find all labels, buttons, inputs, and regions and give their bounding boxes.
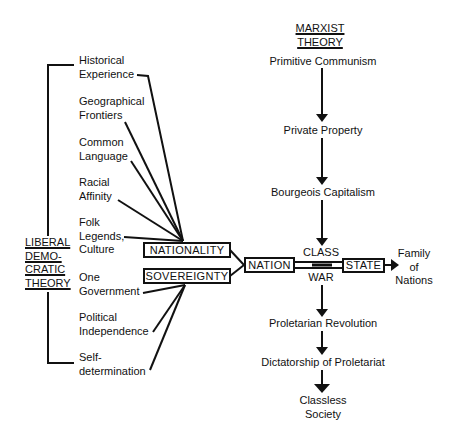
- line-government: [143, 285, 185, 293]
- factor-geographical-frontiers: GeographicalFrontiers: [79, 95, 144, 122]
- nationality-box: NATIONALITY: [143, 242, 231, 258]
- arrowhead-icon: [316, 309, 328, 317]
- war-label: WAR: [308, 271, 333, 285]
- factor-political-independence: PoliticalIndependence: [79, 311, 149, 338]
- sovereignty-box: SOVEREIGNTY: [143, 268, 231, 284]
- class-label: CLASS: [303, 246, 339, 260]
- factor-racial-affinity: RacialAffinity: [79, 176, 112, 203]
- stage-primitive-communism: Primitive Communism: [270, 55, 377, 69]
- arrowhead-icon: [316, 177, 328, 185]
- marxist-theory-title: MARXISTTHEORY: [296, 22, 345, 49]
- stage-dictatorship-of-proletariat: Dictatorship of Proletariat: [261, 356, 385, 370]
- liberal-bracket-bottom: [48, 292, 74, 363]
- arrowhead-icon: [314, 384, 330, 393]
- factor-common-language: CommonLanguage: [79, 136, 128, 163]
- stage-proletarian-revolution: Proletarian Revolution: [269, 317, 377, 331]
- liberal-bracket-top: [48, 65, 74, 236]
- arrowhead-icon: [316, 114, 328, 122]
- stage-private-property: Private Property: [284, 124, 363, 138]
- line-folk: [124, 237, 183, 241]
- liberal-theory-title: LIBERAL DEMO- CRATIC THEORY: [25, 236, 71, 290]
- factor-historical-experience: HistoricalExperience: [79, 54, 134, 81]
- factor-folk-legends-culture: FolkLegends,Culture: [79, 216, 124, 257]
- state-box: STATE: [342, 258, 385, 273]
- factor-one-government: OneGovernment: [79, 271, 140, 298]
- stage-classless-society: ClasslessSociety: [299, 394, 346, 421]
- line-sovereignty-nation: [230, 265, 244, 276]
- connector-lines: [0, 0, 456, 445]
- factor-self-determination: Self-determination: [79, 351, 146, 378]
- stage-bourgeois-capitalism: Bourgeois Capitalism: [271, 186, 375, 200]
- nation-box: NATION: [244, 257, 295, 273]
- family-of-nations-label: FamilyofNations: [395, 247, 432, 288]
- arrowhead-icon: [316, 238, 328, 246]
- arrowhead-icon: [316, 347, 328, 355]
- line-nationality-nation: [230, 250, 244, 265]
